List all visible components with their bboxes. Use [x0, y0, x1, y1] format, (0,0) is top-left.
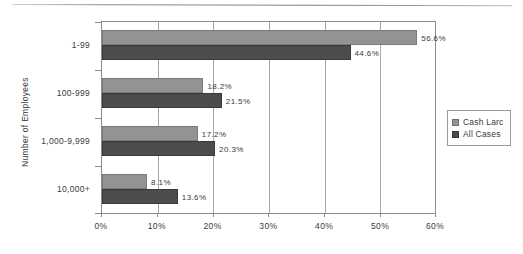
y-axis-labels: 1-99 100-999 1,000-9,999 10,000+ [0, 21, 95, 214]
bar-value-label: 44.6% [351, 48, 380, 57]
y-axis-tick [95, 166, 101, 167]
y-axis-label-1-99: 1-99 [72, 40, 90, 50]
y-axis-label-1000-9999: 1,000-9,999 [41, 136, 90, 146]
bar-value-label: 17.2% [198, 129, 227, 138]
bar-all-cases-1-99[interactable] [102, 45, 351, 60]
x-axis-label-40: 40% [315, 221, 333, 231]
x-axis-labels: 0% 10% 20% 30% 40% 50% 60% [101, 217, 436, 237]
x-axis-label-50: 50% [371, 221, 389, 231]
bar-value-label: 20.3% [215, 144, 244, 153]
bar-value-label: 13.6% [178, 192, 207, 201]
x-axis-label-20: 20% [203, 221, 221, 231]
legend-item-cash-larc[interactable]: Cash Larc [452, 117, 504, 127]
x-axis-label-10: 10% [148, 221, 166, 231]
bar-value-label: 8.1% [147, 177, 171, 186]
plot-area: 56.6% 44.6% 18.2% 21.5% 17.2% [101, 21, 436, 214]
x-axis-tick [380, 213, 381, 217]
bar-all-cases-1000-9999[interactable] [102, 141, 215, 156]
bar-value-label: 21.5% [222, 96, 251, 105]
y-axis-label-10000-plus: 10,000+ [57, 184, 90, 194]
bar-group-10000-plus: 8.1% 13.6% [102, 166, 435, 214]
bar-group-1000-9999: 17.2% 20.3% [102, 118, 435, 166]
legend-item-all-cases[interactable]: All Cases [452, 129, 504, 139]
bar-chart: Number of Employees 1-99 100-999 1,000-9… [0, 0, 523, 254]
y-axis-tick [95, 22, 101, 23]
x-axis-label-60: 60% [426, 221, 444, 231]
bar-group-100-999: 18.2% 21.5% [102, 70, 435, 118]
x-axis-label-30: 30% [259, 221, 277, 231]
x-axis-tick [435, 213, 436, 217]
x-axis-label-0: 0% [94, 221, 107, 231]
y-axis-label-100-999: 100-999 [57, 88, 90, 98]
legend-label-cash-larc: Cash Larc [463, 117, 504, 127]
x-axis-tick [324, 213, 325, 217]
bar-all-cases-100-999[interactable] [102, 93, 222, 108]
x-axis-tick [213, 213, 214, 217]
bar-cash-larc-100-999[interactable] [102, 78, 203, 93]
bar-cash-larc-1000-9999[interactable] [102, 126, 198, 141]
y-axis-tick [95, 118, 101, 119]
bar-cash-larc-1-99[interactable] [102, 30, 417, 45]
x-axis-tick [157, 213, 158, 217]
y-axis-tick [95, 70, 101, 71]
bar-value-label: 18.2% [203, 81, 232, 90]
legend-label-all-cases: All Cases [463, 129, 501, 139]
legend-swatch-icon [452, 119, 459, 126]
legend-swatch-icon [452, 131, 459, 138]
bar-all-cases-10000-plus[interactable] [102, 189, 178, 204]
x-axis-tick [101, 213, 102, 217]
bar-group-1-99: 56.6% 44.6% [102, 22, 435, 70]
x-axis-tick [268, 213, 269, 217]
chart-legend: Cash Larc All Cases [447, 110, 511, 146]
bar-cash-larc-10000-plus[interactable] [102, 174, 147, 189]
bar-value-label: 56.6% [417, 33, 446, 42]
